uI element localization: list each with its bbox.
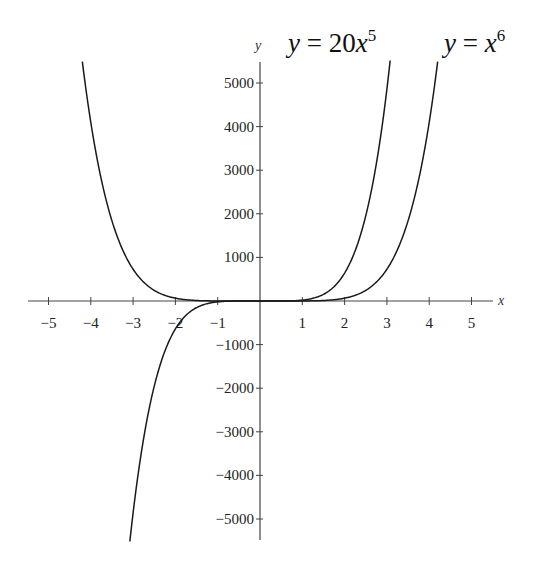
y-axis-label: y (253, 38, 262, 53)
y-tick-label: 2000 (224, 206, 254, 222)
axes: x y (28, 38, 505, 540)
y-tick-label: −5000 (216, 511, 254, 527)
x-tick-label: −4 (83, 315, 99, 331)
x-axis-label: x (497, 293, 505, 308)
y-tick-label: −4000 (216, 467, 254, 483)
x-tick-label: 3 (383, 315, 391, 331)
x-ticks: −5−4−3−2−112345 (41, 297, 476, 331)
y-tick-label: 1000 (224, 249, 254, 265)
x-tick-label: 2 (341, 315, 349, 331)
x-tick-label: −5 (41, 315, 57, 331)
y-tick-label: 4000 (224, 119, 254, 135)
x-tick-label: 5 (468, 315, 476, 331)
y-tick-label: −1000 (216, 337, 254, 353)
function-plot: x y −5−4−3−2−112345 50004000300020001000… (0, 0, 543, 567)
y-tick-label: 3000 (224, 162, 254, 178)
x-tick-label: −1 (210, 315, 226, 331)
y-tick-label: −2000 (216, 380, 254, 396)
curve-label-20x5: y = 20x5 (285, 26, 376, 58)
y-tick-label: 5000 (224, 75, 254, 91)
x-tick-label: 4 (425, 315, 433, 331)
x-tick-label: −3 (125, 315, 141, 331)
y-tick-label: −3000 (216, 424, 254, 440)
x-tick-label: 1 (299, 315, 307, 331)
curve-label-x6: y = x6 (441, 26, 505, 58)
